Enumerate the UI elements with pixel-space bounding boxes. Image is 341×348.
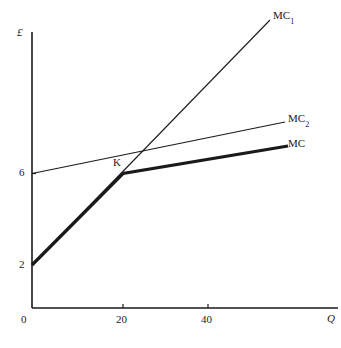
mc-label-base: MC: [288, 137, 305, 149]
plot-area: [0, 0, 341, 348]
mc1-label-base: MC: [273, 9, 290, 21]
x-tick-label-40: 40: [201, 314, 212, 325]
y-axis-label: £: [17, 27, 23, 38]
x-tick-label-20: 20: [116, 314, 127, 325]
mc-curve: [32, 146, 288, 265]
mc1-label-subscript: 1: [290, 17, 294, 26]
mc2-label-subscript: 2: [305, 120, 309, 129]
mc1-curve-label: MC1: [273, 10, 294, 24]
x-tick-label-0: 0: [21, 314, 27, 325]
kink-point-label: K: [113, 157, 121, 168]
mc2-curve: [32, 122, 285, 174]
mc-curve-label: MC: [288, 138, 305, 149]
mc2-curve-label: MC2: [288, 113, 309, 127]
y-tick-label-2: 2: [19, 259, 25, 270]
x-axis-label: Q: [327, 313, 335, 324]
kinked-marginal-cost-chart: £ Q 6 2 0 20 40 MC1 MC2 MC K: [0, 0, 341, 348]
y-tick-label-6: 6: [19, 167, 25, 178]
mc2-label-base: MC: [288, 112, 305, 124]
